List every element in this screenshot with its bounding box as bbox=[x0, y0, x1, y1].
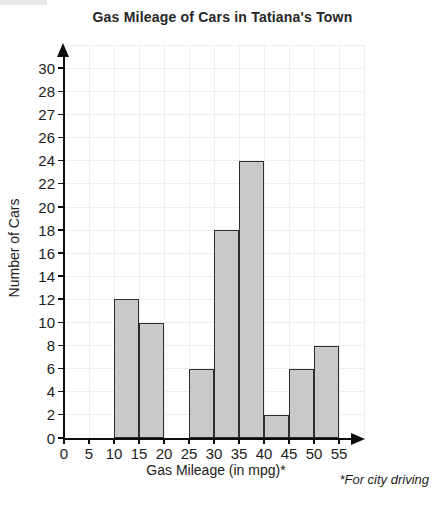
v-gridline bbox=[89, 45, 90, 438]
x-tick bbox=[313, 440, 315, 444]
x-tick-label: 55 bbox=[324, 445, 354, 462]
v-gridline bbox=[364, 45, 365, 438]
bar bbox=[139, 323, 164, 439]
y-tick-label: 10 bbox=[23, 314, 55, 331]
x-tick bbox=[263, 440, 265, 444]
y-axis-arrow-icon bbox=[57, 43, 69, 57]
y-tick bbox=[58, 391, 64, 393]
y-tick-label: 0 bbox=[23, 430, 55, 447]
y-axis-title: Number of Cars bbox=[6, 199, 22, 298]
y-tick-label: 18 bbox=[23, 222, 55, 239]
x-tick bbox=[188, 440, 190, 444]
y-tick bbox=[58, 160, 64, 162]
x-tick bbox=[63, 440, 65, 444]
y-tick bbox=[58, 206, 64, 208]
y-tick-label: 27 bbox=[23, 106, 55, 123]
y-tick-label: 16 bbox=[23, 245, 55, 262]
bar bbox=[264, 415, 289, 438]
bar-chart: 0246810121416182022242627283005101520253… bbox=[0, 0, 445, 507]
y-tick-label: 4 bbox=[23, 383, 55, 400]
y-tick bbox=[58, 345, 64, 347]
y-tick bbox=[58, 414, 64, 416]
y-tick bbox=[58, 91, 64, 93]
worksheet-page: Gas Mileage of Cars in Tatiana's Town 02… bbox=[0, 0, 445, 507]
bar bbox=[114, 299, 139, 438]
x-tick bbox=[288, 440, 290, 444]
y-tick-label: 14 bbox=[23, 268, 55, 285]
y-tick-label: 30 bbox=[23, 60, 55, 77]
y-tick-label: 6 bbox=[23, 360, 55, 377]
y-tick bbox=[58, 298, 64, 300]
y-tick bbox=[58, 437, 64, 439]
y-tick bbox=[58, 114, 64, 116]
y-tick-label: 12 bbox=[23, 291, 55, 308]
x-tick bbox=[163, 440, 165, 444]
bar bbox=[239, 161, 264, 438]
y-tick-label: 24 bbox=[23, 152, 55, 169]
y-tick-label: 20 bbox=[23, 199, 55, 216]
x-tick bbox=[238, 440, 240, 444]
y-tick-label: 28 bbox=[23, 83, 55, 100]
x-tick bbox=[113, 440, 115, 444]
y-tick-label: 22 bbox=[23, 175, 55, 192]
x-axis-line bbox=[63, 438, 352, 440]
x-axis-arrow-icon bbox=[351, 433, 365, 445]
footnote: *For city driving bbox=[339, 472, 429, 487]
x-tick bbox=[338, 440, 340, 444]
y-tick-label: 2 bbox=[23, 406, 55, 423]
x-tick bbox=[213, 440, 215, 444]
bar bbox=[314, 346, 339, 438]
y-tick bbox=[58, 137, 64, 139]
y-tick-label: 26 bbox=[23, 129, 55, 146]
y-tick bbox=[58, 252, 64, 254]
y-tick bbox=[58, 368, 64, 370]
y-tick bbox=[58, 67, 64, 69]
bar bbox=[189, 369, 214, 438]
y-tick bbox=[58, 322, 64, 324]
bar bbox=[289, 369, 314, 438]
x-tick bbox=[138, 440, 140, 444]
y-tick bbox=[58, 229, 64, 231]
y-tick-label: 8 bbox=[23, 337, 55, 354]
x-tick bbox=[88, 440, 90, 444]
bar bbox=[214, 230, 239, 438]
y-tick bbox=[58, 275, 64, 277]
y-tick bbox=[58, 183, 64, 185]
